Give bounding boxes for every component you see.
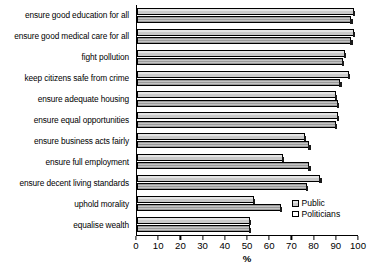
bar-slot bbox=[137, 91, 358, 98]
category-label: keep citizens safe from crime bbox=[0, 68, 133, 89]
x-tick-label: 50 bbox=[242, 240, 253, 252]
bar-politicians bbox=[137, 58, 343, 65]
bar-public bbox=[137, 175, 320, 182]
bar-slot bbox=[137, 79, 358, 86]
bar-slot bbox=[137, 133, 358, 140]
bar-slot bbox=[137, 71, 358, 78]
x-tick-label: 20 bbox=[175, 240, 186, 252]
bar-slot bbox=[137, 141, 358, 148]
bar-slot bbox=[137, 16, 358, 23]
category-label: ensure full employment bbox=[0, 152, 133, 173]
legend-swatch-public-icon bbox=[292, 200, 299, 207]
bar-slot bbox=[137, 162, 358, 169]
x-axis-title: % bbox=[136, 253, 358, 265]
bar-slot bbox=[137, 121, 358, 128]
bar-slot bbox=[137, 8, 358, 15]
bar-politicians bbox=[137, 162, 309, 169]
bar-politicians bbox=[137, 121, 336, 128]
x-tick-label: 40 bbox=[219, 240, 230, 252]
x-tick-label: 30 bbox=[197, 240, 208, 252]
category-label: equalise wealth bbox=[0, 215, 133, 236]
legend-item-politicians: Politicians bbox=[292, 209, 340, 220]
bar-group bbox=[137, 130, 358, 151]
category-label: ensure adequate housing bbox=[0, 89, 133, 110]
bar-public bbox=[137, 71, 349, 78]
bar-chart: ensure good education for allensure good… bbox=[0, 0, 369, 273]
bar-slot bbox=[137, 225, 358, 232]
bar-group bbox=[137, 5, 358, 26]
bar-slot bbox=[137, 175, 358, 182]
x-tick-label: 70 bbox=[286, 240, 297, 252]
category-label: fight pollution bbox=[0, 47, 133, 68]
x-tick-label: 60 bbox=[264, 240, 275, 252]
x-tick-label: 10 bbox=[153, 240, 164, 252]
x-tick-label: 90 bbox=[330, 240, 341, 252]
bar-public bbox=[137, 196, 254, 203]
bar-group bbox=[137, 151, 358, 172]
bar-slot bbox=[137, 37, 358, 44]
bar-politicians bbox=[137, 183, 307, 190]
category-axis-labels: ensure good education for allensure good… bbox=[0, 5, 133, 236]
legend-label-politicians: Politicians bbox=[302, 209, 341, 220]
bar-group bbox=[137, 89, 358, 110]
category-label: ensure equal opportunities bbox=[0, 110, 133, 131]
category-label: ensure good education for all bbox=[0, 5, 133, 26]
category-label: ensure business acts fairly bbox=[0, 131, 133, 152]
legend-swatch-politicians-icon bbox=[292, 211, 299, 218]
bar-politicians bbox=[137, 141, 309, 148]
bar-politicians bbox=[137, 100, 338, 107]
x-tick-label: 80 bbox=[308, 240, 319, 252]
bar-group bbox=[137, 172, 358, 193]
category-label: uphold morality bbox=[0, 194, 133, 215]
bar-slot bbox=[137, 58, 358, 65]
bar-public bbox=[137, 50, 345, 57]
bar-public bbox=[137, 133, 305, 140]
bar-politicians bbox=[137, 37, 351, 44]
bar-slot bbox=[137, 29, 358, 36]
bar-slot bbox=[137, 100, 358, 107]
bar-public bbox=[137, 154, 283, 161]
bar-slot bbox=[137, 183, 358, 190]
bar-politicians bbox=[137, 16, 351, 23]
bar-public bbox=[137, 8, 354, 15]
bar-public bbox=[137, 112, 338, 119]
bar-public bbox=[137, 217, 250, 224]
x-axis-tick-labels: 0102030405060708090100 bbox=[136, 240, 358, 253]
legend-item-public: Public bbox=[292, 198, 340, 209]
chart-legend: Public Politicians bbox=[292, 198, 340, 219]
bar-group bbox=[137, 68, 358, 89]
bar-public bbox=[137, 29, 354, 36]
bar-public bbox=[137, 91, 336, 98]
category-label: ensure decent living standards bbox=[0, 173, 133, 194]
bar-politicians bbox=[137, 79, 340, 86]
bar-politicians bbox=[137, 204, 281, 211]
bar-politicians bbox=[137, 225, 250, 232]
legend-label-public: Public bbox=[302, 198, 325, 209]
bar-slot bbox=[137, 50, 358, 57]
bar-group bbox=[137, 47, 358, 68]
bar-group bbox=[137, 110, 358, 131]
bar-slot bbox=[137, 154, 358, 161]
category-label: ensure good medical care for all bbox=[0, 26, 133, 47]
x-tick-label: 100 bbox=[350, 240, 366, 252]
bar-group bbox=[137, 26, 358, 47]
bar-slot bbox=[137, 112, 358, 119]
x-tick-label: 0 bbox=[133, 240, 138, 252]
